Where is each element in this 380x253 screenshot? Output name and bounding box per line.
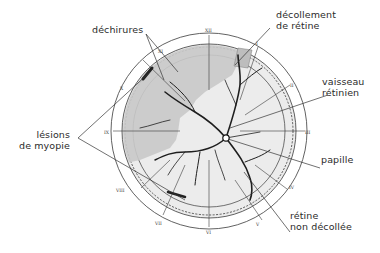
label-papille: papille — [321, 155, 353, 166]
hour-xi: XI — [158, 49, 163, 54]
hour-iv: IV — [289, 185, 295, 190]
retina-diagram: XII I II III IV V VI VII VIII IX X XI dé… — [0, 0, 380, 253]
hour-viii: VIII — [115, 188, 125, 193]
hour-vii: VII — [154, 221, 162, 226]
label-decollement: décollement de rétine — [276, 10, 336, 31]
label-lesions-myopie: lésions de myopie — [12, 130, 70, 151]
label-vaisseau: vaisseau rétinien — [322, 77, 364, 98]
hour-vi: VI — [205, 230, 211, 235]
label-dechirures: déchirures — [92, 25, 143, 36]
hour-i: I — [256, 41, 258, 46]
hour-ii: II — [290, 83, 294, 88]
hour-ix: IX — [104, 130, 110, 135]
hour-xii: XII — [205, 28, 212, 33]
label-retine-non-decollee: rétine non décollée — [290, 211, 352, 232]
hour-iii: III — [305, 130, 311, 135]
papilla — [223, 135, 229, 141]
hour-v: V — [255, 222, 260, 227]
